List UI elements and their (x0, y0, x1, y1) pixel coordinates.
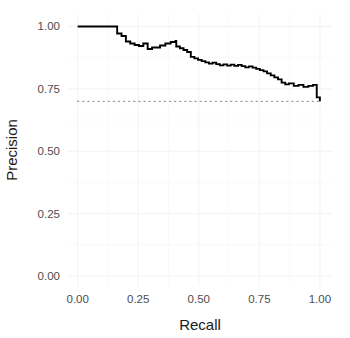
x-axis-tick-labels: 0.000.250.500.751.00 (66, 293, 331, 305)
x-tick-label: 0.00 (66, 293, 88, 305)
y-axis-title: Precision (3, 119, 20, 181)
y-tick-label: 0.25 (38, 208, 60, 220)
y-tick-label: 1.00 (38, 20, 60, 32)
x-tick-label: 0.25 (127, 293, 149, 305)
precision-recall-plot: 0.000.250.500.751.00 0.000.250.500.751.0… (0, 0, 350, 338)
x-tick-label: 0.75 (248, 293, 270, 305)
y-axis-tick-labels: 0.000.250.500.751.00 (38, 20, 60, 282)
x-tick-label: 1.00 (309, 293, 331, 305)
x-axis-title: Recall (179, 316, 221, 333)
chart-canvas: 0.000.250.500.751.00 0.000.250.500.751.0… (0, 0, 350, 338)
y-tick-label: 0.75 (38, 83, 60, 95)
x-tick-label: 0.50 (188, 293, 210, 305)
plot-panel-background (68, 14, 332, 286)
y-tick-label: 0.00 (38, 270, 60, 282)
y-tick-label: 0.50 (38, 145, 60, 157)
